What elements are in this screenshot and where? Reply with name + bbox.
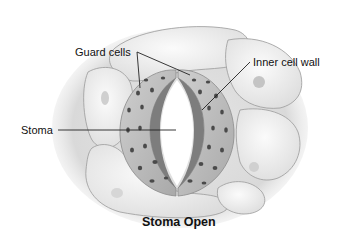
stoma-label: Stoma [21,124,53,136]
diagram-title: Stoma Open [142,215,216,229]
stoma-diagram: Guard cells Inner cell wall Stoma Stoma … [0,0,340,241]
guard-cells-label: Guard cells [75,46,131,58]
guard-cells [120,70,234,196]
stoma-illustration [0,0,340,241]
inner-cell-wall-label: Inner cell wall [253,56,320,68]
